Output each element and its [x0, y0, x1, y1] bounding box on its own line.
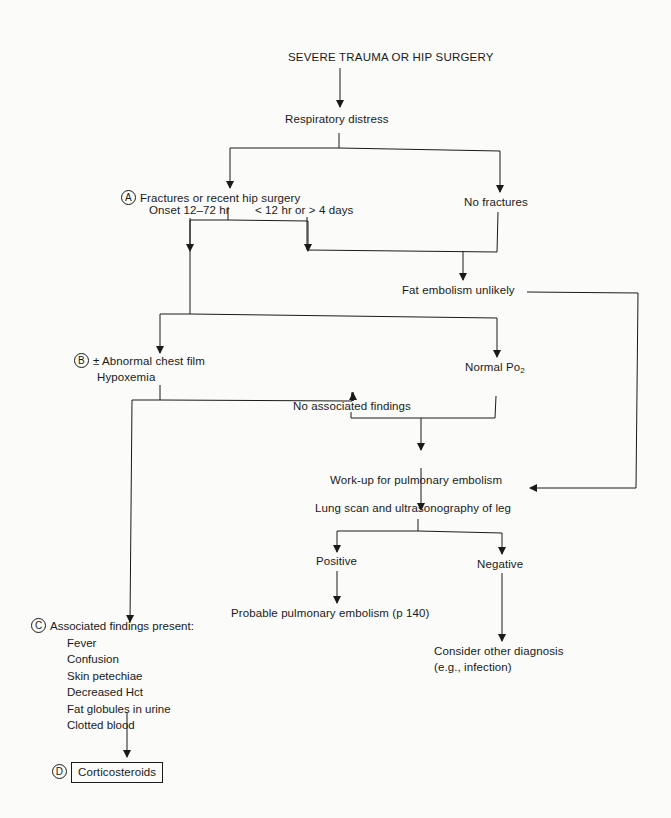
onset-other-node: < 12 hr or > 4 days [255, 202, 353, 218]
finding-item: Fever [67, 635, 194, 652]
finding-item: Skin petechiae [67, 668, 194, 685]
badge-b-icon: B [74, 353, 89, 368]
badge-d-icon: D [52, 764, 67, 779]
lung-scan-node: Lung scan and ultrasonography of leg [315, 500, 511, 516]
associated-findings-heading: Associated findings present: [50, 620, 194, 632]
probable-pe-node: Probable pulmonary embolism (p 140) [231, 605, 429, 621]
onset-node: Onset 12–72 hr [149, 202, 230, 218]
abnormal-chest-node: B± Abnormal chest film Hypoxemia [74, 353, 205, 385]
associated-findings-node: CAssociated findings present: Fever Conf… [31, 618, 194, 734]
fat-embolism-unlikely-node: Fat embolism unlikely [402, 282, 515, 298]
badge-a-icon: A [121, 190, 136, 205]
finding-item: Confusion [67, 651, 194, 668]
consider-other-node: Consider other diagnosis (e.g., infectio… [434, 643, 564, 675]
hypoxemia-label: Hypoxemia [74, 369, 205, 385]
negative-node: Negative [477, 556, 523, 572]
finding-item: Clotted blood [67, 717, 194, 734]
start-node: SEVERE TRAUMA OR HIP SURGERY [288, 49, 494, 65]
finding-item: Fat globules in urine [67, 701, 194, 718]
abnormal-chest-label: ± Abnormal chest film [93, 355, 205, 367]
positive-node: Positive [316, 553, 357, 569]
no-associated-findings-node: No associated findings [293, 398, 411, 414]
consider-other-line2: (e.g., infection) [434, 659, 564, 675]
corticosteroids-box: Corticosteroids [71, 762, 163, 783]
normal-po2-label: Normal Po [465, 361, 520, 373]
normal-po2-subscript: 2 [520, 366, 525, 375]
normal-po2-node: Normal Po2 [465, 359, 525, 375]
treatment-node: DCorticosteroids [52, 762, 163, 783]
finding-item: Decreased Hct [67, 684, 194, 701]
no-fractures-node: No fractures [464, 194, 528, 210]
respiratory-distress-node: Respiratory distress [285, 111, 389, 127]
workup-node: Work-up for pulmonary embolism [330, 472, 502, 488]
consider-other-line1: Consider other diagnosis [434, 643, 564, 659]
badge-c-icon: C [31, 618, 46, 633]
